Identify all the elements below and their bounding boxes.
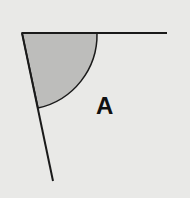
angle-diagram bbox=[0, 0, 190, 198]
angle-sector bbox=[22, 33, 97, 108]
angle-label: A bbox=[96, 94, 113, 118]
